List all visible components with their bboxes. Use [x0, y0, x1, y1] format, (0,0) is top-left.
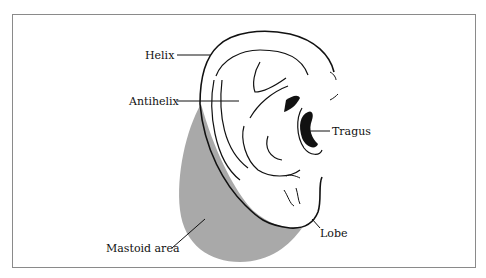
helix-inner-rim	[212, 50, 308, 180]
ear-canal	[300, 111, 318, 147]
label-mastoid-area: Mastoid area	[106, 243, 179, 254]
label-tragus: Tragus	[332, 126, 371, 137]
label-antihelix: Antihelix	[129, 96, 179, 107]
label-lobe: Lobe	[320, 228, 347, 239]
lobe-leader-line	[312, 219, 320, 228]
concha-shading	[284, 96, 300, 112]
label-helix: Helix	[145, 50, 174, 61]
antihelix-fold	[243, 62, 300, 176]
ear-diagram	[0, 0, 486, 278]
mastoid-area-region	[179, 104, 302, 262]
